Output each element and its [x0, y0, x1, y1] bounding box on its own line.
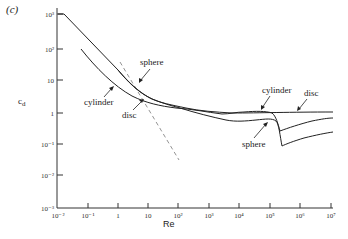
drag-coefficient-chart: (c) 10³ 10² 10 1 10⁻¹ 10⁻² 10⁻³ 10⁻² 10⁻…: [0, 0, 348, 239]
y-tick-label: 10: [47, 77, 55, 85]
x-tick-label: 10⁻¹: [81, 212, 94, 220]
x-tick-label: 10: [145, 212, 153, 220]
sphere-curve: [58, 14, 333, 146]
svg-text:disc: disc: [304, 88, 319, 98]
svg-text:cylinder: cylinder: [262, 85, 292, 95]
y-tick-label: 10³: [45, 11, 54, 19]
svg-text:sphere: sphere: [242, 139, 266, 149]
svg-text:cylinder: cylinder: [84, 97, 114, 107]
label-sphere-upper: sphere: [139, 57, 164, 83]
label-disc-left: disc: [122, 99, 144, 120]
y-axis-title: cd: [18, 96, 26, 108]
svg-text:sphere: sphere: [140, 57, 164, 67]
x-tick-label: 1: [116, 212, 120, 220]
y-tick-label: 1: [51, 110, 55, 118]
x-tick-labels: 10⁻² 10⁻¹ 1 10 10² 10³ 10⁴ 10⁵ 10⁶ 10⁷: [51, 212, 336, 220]
x-tick-label: 10⁷: [326, 212, 336, 220]
y-tick-label: 10²: [45, 46, 54, 54]
label-disc-right: disc: [297, 88, 319, 111]
cylinder-curve: [81, 49, 333, 131]
x-tick-label: 10⁶: [295, 212, 305, 220]
svg-text:disc: disc: [122, 110, 137, 120]
label-cylinder-right: cylinder: [261, 85, 292, 110]
y-tick-label: 10⁻²: [41, 172, 54, 180]
label-sphere-lower: sphere: [242, 122, 268, 149]
x-tick-label: 10⁵: [265, 212, 275, 220]
x-tick-label: 10⁴: [234, 212, 244, 220]
label-cylinder-left: cylinder: [84, 86, 114, 107]
x-axis-title: Re: [163, 219, 175, 229]
x-ticks: [88, 203, 331, 208]
y-tick-label: 10⁻¹: [41, 141, 54, 149]
panel-label: (c): [6, 3, 19, 16]
x-tick-label: 10⁻²: [51, 212, 64, 220]
x-tick-label: 10³: [204, 212, 213, 220]
y-tick-labels: 10³ 10² 10 1 10⁻¹ 10⁻² 10⁻³: [41, 11, 55, 213]
y-ticks: [57, 14, 63, 175]
x-tick-label: 10²: [173, 212, 182, 220]
